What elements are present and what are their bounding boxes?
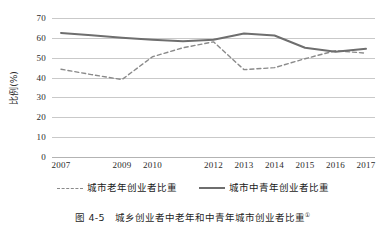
- x-tick-2009: 2009: [113, 160, 132, 170]
- x-tick-2013: 2013: [235, 160, 254, 170]
- x-tick-2014: 2014: [265, 160, 284, 170]
- y-axis-title: 比例(%): [9, 71, 19, 105]
- caption-text: 城乡创业者中老年和中青年城市创业者比重: [115, 212, 305, 223]
- figure-caption: 图 4-5城乡创业者中老年和中青年城市创业者比重①: [0, 208, 385, 224]
- legend-swatch-dashed-icon: [57, 188, 83, 189]
- series-plot: [52, 18, 375, 157]
- x-tick-2015: 2015: [296, 160, 315, 170]
- legend-item-elderly: 城市老年创业者比重: [57, 182, 177, 194]
- caption-footnote-mark: ①: [305, 211, 310, 218]
- legend-label-elderly: 城市老年创业者比重: [87, 182, 177, 194]
- y-tick-40: 40: [37, 73, 46, 82]
- y-tick-10: 10: [37, 133, 46, 142]
- x-axis-tick-labels: 200720092010201220132014201520162017: [52, 160, 375, 174]
- legend-label-youth: 城市中青年创业者比重: [229, 182, 329, 194]
- y-tick-70: 70: [37, 14, 46, 23]
- x-tick-2017: 2017: [357, 160, 376, 170]
- caption-number: 图 4-5: [75, 212, 105, 223]
- y-tick-50: 50: [37, 53, 46, 62]
- chart-legend: 城市老年创业者比重 城市中青年创业者比重: [0, 182, 385, 194]
- x-tick-2010: 2010: [143, 160, 162, 170]
- x-tick-2007: 2007: [52, 160, 71, 170]
- gridline-0: [52, 157, 375, 158]
- x-tick-2016: 2016: [326, 160, 345, 170]
- plot-area: [52, 18, 375, 157]
- series-line-elderly: [61, 42, 366, 80]
- y-tick-0: 0: [41, 153, 46, 162]
- legend-swatch-solid-icon: [199, 187, 225, 189]
- y-axis-tick-labels: 010203040506070: [22, 18, 50, 157]
- plot-wrapper: [52, 18, 375, 157]
- x-tick-2012: 2012: [204, 160, 223, 170]
- legend-item-youth: 城市中青年创业者比重: [199, 182, 329, 194]
- y-tick-30: 30: [37, 93, 46, 102]
- figure-container: 比例(%) 010203040506070 200720092010201220…: [0, 0, 385, 233]
- y-tick-20: 20: [37, 113, 46, 122]
- y-tick-60: 60: [37, 33, 46, 42]
